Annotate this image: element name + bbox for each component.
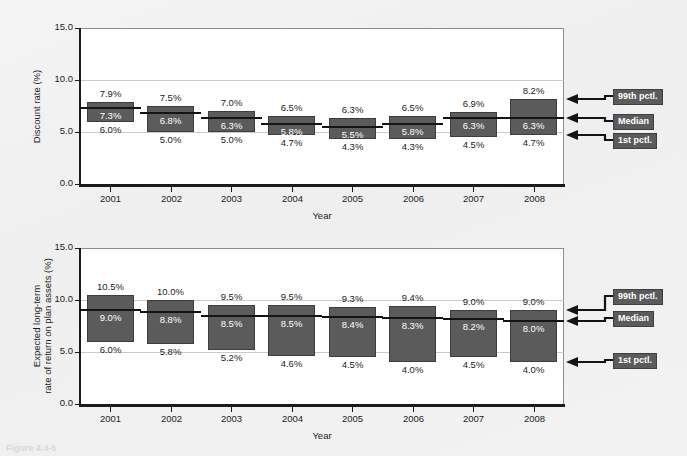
median-line-2002 — [140, 311, 201, 313]
bar-2008 — [510, 310, 557, 362]
x-tick-mark — [534, 407, 535, 412]
y-axis-title-line: Expected long-term — [31, 228, 42, 424]
x-tick-label-2005: 2005 — [322, 413, 383, 424]
legend-tag-99th-pctl: 99th pctl. — [613, 289, 663, 305]
x-tick-mark — [292, 407, 293, 412]
x-tick-label-2004: 2004 — [262, 413, 323, 424]
bar-2004 — [268, 305, 315, 356]
x-tick-label-2007: 2007 — [443, 413, 504, 424]
value-label-bottom-2008: 4.0% — [492, 364, 575, 375]
figure-page: 15.010.05.00.0Discount rate (%)7.9%6.0%7… — [0, 0, 687, 456]
median-line-2006 — [382, 317, 443, 319]
x-tick-label-2002: 2002 — [141, 413, 202, 424]
x-tick-mark — [352, 407, 353, 412]
value-label-top-2008: 9.0% — [492, 296, 575, 307]
legend-tag-median: Median — [613, 311, 654, 327]
x-tick-label-2001: 2001 — [80, 413, 141, 424]
x-tick-mark — [473, 407, 474, 412]
x-tick-mark — [231, 407, 232, 412]
legend-arrow-legend-tag-median — [566, 308, 615, 331]
y-axis-line — [79, 248, 81, 407]
median-line-2001 — [80, 309, 141, 311]
value-label-median-2005: 8.4% — [329, 319, 376, 330]
x-axis-title: Year — [80, 430, 564, 441]
bar-2006 — [389, 306, 436, 362]
median-line-2008 — [503, 320, 564, 322]
x-tick-label-2003: 2003 — [201, 413, 262, 424]
chart-expected-return: 15.010.05.00.0Expected long-termrate of … — [0, 0, 687, 456]
x-tick-label-2008: 2008 — [504, 413, 565, 424]
median-line-2005 — [322, 316, 383, 318]
value-label-median-2002: 8.8% — [147, 314, 194, 325]
value-label-median-2007: 8.2% — [450, 321, 497, 332]
y-axis-title: Expected long-termrate of return on plan… — [31, 228, 53, 424]
x-tick-mark — [171, 407, 172, 412]
figure-caption: Figure 4.4-5 — [6, 443, 57, 453]
x-tick-mark — [110, 407, 111, 412]
legend-arrow-legend-tag-1st-pctl — [566, 350, 615, 372]
value-label-median-2006: 8.3% — [389, 320, 436, 331]
legend-tag-1st-pctl: 1st pctl. — [613, 353, 657, 369]
y-axis-title-line: rate of return on plan assets (%) — [42, 228, 53, 424]
median-line-2004 — [261, 315, 322, 317]
median-line-2003 — [201, 315, 262, 317]
median-line-2007 — [443, 318, 504, 320]
x-tick-label-2006: 2006 — [383, 413, 444, 424]
bar-2005 — [329, 307, 376, 357]
value-label-median-2004: 8.5% — [268, 318, 315, 329]
value-label-median-2003: 8.5% — [208, 318, 255, 329]
value-label-median-2001: 9.0% — [87, 312, 134, 323]
value-label-median-2008: 8.0% — [510, 323, 557, 334]
x-axis-line — [79, 404, 565, 407]
x-tick-mark — [413, 407, 414, 412]
